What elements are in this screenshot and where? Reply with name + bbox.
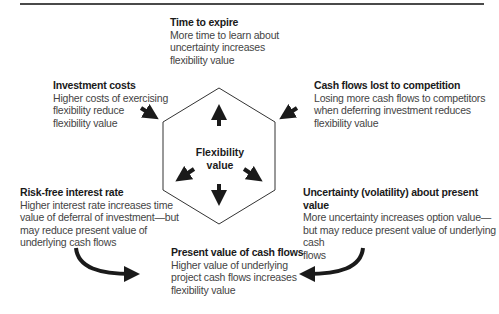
factor-desc-line: Higher costs of exercising [53, 92, 168, 105]
factor-desc-line: Higher interest rate increases time [20, 199, 179, 212]
factor-desc-line: flows [303, 249, 499, 262]
factor-uncertainty: Uncertainty (volatility) about present v… [303, 186, 499, 261]
factor-present-value: Present value of cash flows Higher value… [171, 246, 303, 296]
factor-desc-line: uncertainty increases [170, 41, 279, 54]
factor-desc-line: flexibility value [314, 117, 485, 130]
factor-title: Time to expire [170, 16, 279, 29]
center-label-line2: value [207, 159, 234, 171]
arrow-in-from-upper-right-icon [286, 108, 297, 115]
factor-time-to-expire: Time to expire More time to learn about … [170, 16, 279, 66]
factor-desc-line: Higher value of underlying [171, 259, 303, 272]
center-label: Flexibility value [189, 146, 251, 171]
factor-desc-line: flexibility value [171, 284, 303, 297]
factor-risk-free-rate: Risk-free interest rate Higher interest … [20, 186, 179, 249]
factor-desc-line: value of deferral of investment—but [20, 211, 179, 224]
factor-cash-flows-lost: Cash flows lost to competition Losing mo… [314, 79, 485, 129]
factor-desc-line: flexibility value [170, 54, 279, 67]
factor-desc-line: Losing more cash flows to competitors [314, 92, 485, 105]
factor-desc-line: may reduce present value of [20, 224, 179, 237]
factor-desc-line: flexibility reduce [53, 104, 168, 117]
factor-desc-line: More uncertainty increases option value— [303, 211, 499, 224]
factor-title: Risk-free interest rate [20, 186, 179, 199]
factor-desc-line: flexibility value [53, 117, 168, 130]
factor-title: Cash flows lost to competition [314, 79, 485, 92]
factor-desc-line: underlying cash flows [20, 236, 179, 249]
factor-investment-costs: Investment costs Higher costs of exercis… [53, 79, 168, 129]
factor-desc-line: More time to learn about [170, 29, 279, 42]
factor-desc-line: but may reduce present value of underlyi… [303, 224, 499, 249]
center-label-line1: Flexibility [196, 146, 244, 158]
factor-desc-line: when deferring investment reduces [314, 104, 485, 117]
factor-title: Present value of cash flows [171, 246, 303, 259]
factor-title: Uncertainty (volatility) about present v… [303, 186, 499, 211]
factor-desc-line: project cash flows increases [171, 271, 303, 284]
factor-title: Investment costs [53, 79, 168, 92]
curved-arrow-right-icon [76, 248, 132, 274]
